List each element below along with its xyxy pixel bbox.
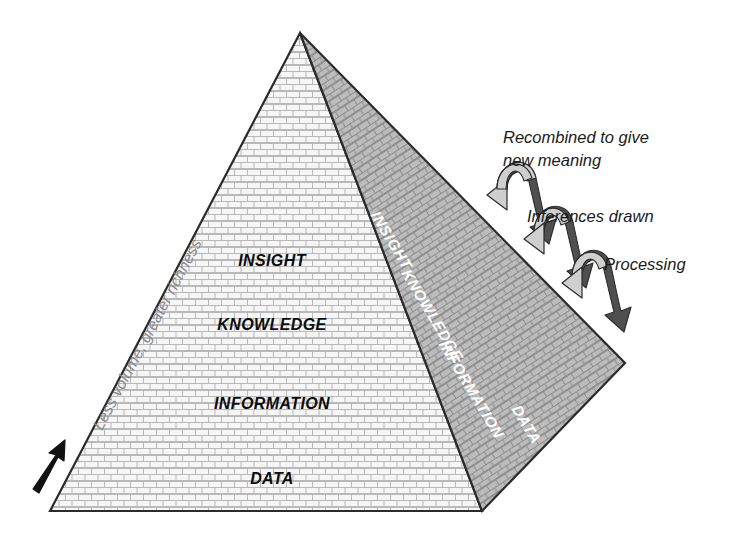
annotation-recombined-line2: new meaning [503,151,602,169]
annotation-inferences: Inferences drawn [527,207,654,225]
growth-arrow-icon [33,440,65,493]
front-label-data: DATA [250,470,294,487]
front-label-information: INFORMATION [214,395,330,412]
curved-arrow-recombined-icon [487,162,556,244]
pyramid-diagram: INSIGHT KNOWLEDGE INFORMATION DATA INSIG… [0,0,735,537]
front-label-knowledge: KNOWLEDGE [217,316,327,333]
front-label-insight: INSIGHT [238,252,307,269]
annotation-recombined: Recombined to give new meaning [503,128,649,169]
annotation-processing: Processing [604,255,686,273]
diagram-canvas: INSIGHT KNOWLEDGE INFORMATION DATA INSIG… [0,0,735,537]
annotation-recombined-line1: Recombined to give [503,128,649,146]
